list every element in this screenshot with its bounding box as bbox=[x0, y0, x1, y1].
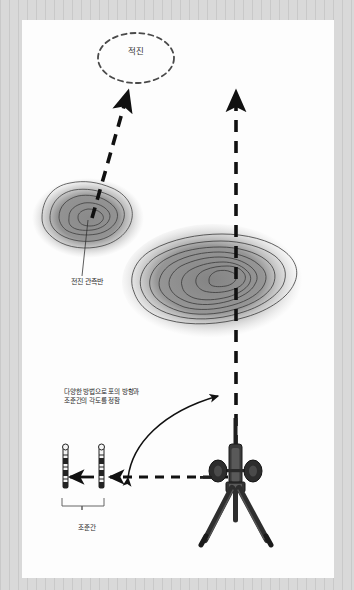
artillery-piece bbox=[200, 418, 271, 545]
aiming-stakes-label: 조준간 bbox=[54, 524, 120, 533]
diagram-canvas: 적진 전진 관측반 다양한 방법으로 포의 방향과 조준간의 각도를 정함 조준… bbox=[22, 20, 334, 578]
target-label: 적진 bbox=[108, 46, 164, 57]
aiming-stake-1 bbox=[63, 444, 69, 488]
method-annotation: 다양한 방법으로 포의 방향과 조준간의 각도를 정함 bbox=[64, 388, 184, 406]
terrain-hill-group bbox=[122, 224, 306, 340]
aiming-stake-2 bbox=[99, 444, 105, 488]
diagram-svg bbox=[22, 20, 334, 578]
method-annotation-line2: 조준간의 각도를 정함 bbox=[64, 397, 184, 406]
observer-hill-group bbox=[32, 178, 144, 258]
arrow-method-curve bbox=[128, 396, 218, 478]
figure-frame: 적진 전진 관측반 다양한 방법으로 포의 방향과 조준간의 각도를 정함 조준… bbox=[0, 0, 354, 590]
target-ellipse bbox=[98, 33, 174, 83]
observer-hill-glow bbox=[32, 178, 144, 258]
method-annotation-line1: 다양한 방법으로 포의 방향과 bbox=[64, 388, 184, 397]
observer-label: 전진 관측반 bbox=[32, 278, 142, 287]
aiming-stakes-brace bbox=[62, 498, 104, 510]
